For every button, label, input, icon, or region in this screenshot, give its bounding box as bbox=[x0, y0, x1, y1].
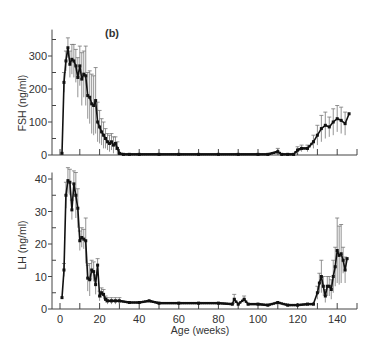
data-point bbox=[328, 125, 331, 128]
data-point bbox=[235, 300, 237, 302]
data-point bbox=[312, 141, 314, 143]
data-point bbox=[102, 134, 105, 137]
data-point bbox=[76, 76, 79, 79]
y-tick-label: 300 bbox=[29, 50, 47, 62]
data-point bbox=[292, 153, 294, 155]
data-point bbox=[62, 269, 65, 272]
data-point bbox=[334, 265, 337, 268]
data-point bbox=[336, 117, 339, 120]
data-point bbox=[110, 140, 113, 143]
x-tick-label: 20 bbox=[93, 313, 105, 325]
data-point bbox=[92, 270, 95, 273]
y-tick-label: 100 bbox=[29, 116, 47, 128]
data-point bbox=[62, 81, 65, 84]
data-point bbox=[60, 296, 63, 299]
data-point bbox=[324, 124, 327, 127]
data-point bbox=[344, 122, 347, 125]
x-tick-label: 140 bbox=[328, 313, 346, 325]
data-point bbox=[116, 147, 119, 150]
data-point bbox=[336, 249, 339, 252]
data-point bbox=[332, 275, 335, 278]
data-point bbox=[346, 257, 349, 260]
data-point bbox=[320, 275, 323, 278]
panel-label: (b) bbox=[105, 27, 119, 39]
y-tick-label: 20 bbox=[35, 238, 47, 250]
data-line bbox=[62, 181, 347, 306]
y-tick-label: 30 bbox=[35, 206, 47, 218]
data-point bbox=[340, 119, 343, 122]
data-point bbox=[328, 285, 331, 288]
data-point bbox=[100, 130, 103, 133]
data-point bbox=[233, 298, 235, 300]
data-point bbox=[348, 112, 351, 115]
lh-y-axis-label: LH (ng/ml) bbox=[16, 220, 28, 269]
y-tick-label: 0 bbox=[41, 303, 47, 315]
data-point bbox=[66, 46, 69, 49]
x-tick-label: 0 bbox=[57, 313, 63, 325]
data-point bbox=[74, 64, 77, 67]
data-point bbox=[340, 252, 343, 255]
data-point bbox=[104, 137, 107, 140]
data-point bbox=[324, 295, 327, 298]
data-point bbox=[78, 239, 81, 242]
data-point bbox=[72, 59, 75, 62]
data-point bbox=[344, 269, 347, 272]
data-point bbox=[322, 285, 325, 288]
y-tick-label: 40 bbox=[35, 173, 47, 185]
data-point bbox=[316, 291, 319, 294]
data-point bbox=[342, 259, 345, 262]
y-tick-label: 0 bbox=[41, 149, 47, 161]
data-point bbox=[64, 59, 67, 62]
data-point bbox=[92, 104, 95, 107]
data-point bbox=[64, 194, 67, 197]
data-point bbox=[94, 283, 97, 286]
data-point bbox=[96, 121, 99, 124]
data-point bbox=[88, 278, 91, 281]
y-tick-label: 200 bbox=[29, 83, 47, 95]
data-point bbox=[308, 145, 310, 147]
y-tick-label: 10 bbox=[35, 271, 47, 283]
data-point bbox=[84, 239, 87, 242]
x-tick-label: 120 bbox=[288, 313, 306, 325]
data-point bbox=[98, 295, 101, 298]
data-point bbox=[320, 127, 323, 130]
data-point bbox=[243, 298, 245, 300]
x-axis-label: Age (weeks) bbox=[171, 324, 229, 336]
data-point bbox=[74, 194, 77, 197]
data-point bbox=[84, 74, 87, 77]
figure: 0100200300 010203040020406080100120140 (… bbox=[0, 0, 382, 359]
data-point bbox=[330, 288, 333, 291]
data-point bbox=[316, 134, 319, 137]
data-point bbox=[94, 99, 97, 102]
data-point bbox=[114, 142, 117, 145]
fsh-panel: 0100200300 bbox=[29, 30, 357, 161]
data-point bbox=[96, 264, 99, 267]
x-tick-label: 40 bbox=[133, 313, 145, 325]
data-point bbox=[68, 63, 71, 66]
data-point bbox=[88, 96, 91, 99]
data-point bbox=[68, 181, 71, 184]
data-point bbox=[98, 125, 101, 128]
data-point bbox=[306, 147, 308, 149]
data-point bbox=[231, 303, 233, 305]
data-point bbox=[245, 300, 247, 302]
data-point bbox=[60, 152, 63, 155]
data-point bbox=[294, 151, 296, 153]
data-point bbox=[80, 78, 83, 81]
data-point bbox=[76, 207, 79, 210]
data-point bbox=[72, 182, 75, 185]
data-point bbox=[332, 121, 335, 124]
lh-panel: 010203040020406080100120140 bbox=[35, 168, 357, 325]
data-point bbox=[102, 293, 104, 295]
data-point bbox=[310, 143, 312, 145]
data-point bbox=[70, 208, 73, 211]
data-point bbox=[318, 282, 321, 285]
data-point bbox=[78, 64, 81, 67]
x-tick-label: 100 bbox=[249, 313, 267, 325]
data-point bbox=[312, 303, 314, 305]
fsh-y-axis-label: FSH (ng/ml) bbox=[16, 75, 28, 132]
